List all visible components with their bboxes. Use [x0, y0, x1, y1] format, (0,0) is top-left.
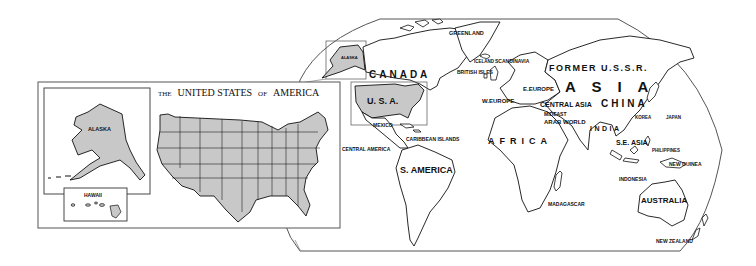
label-se-asia: S.E. ASIA [616, 139, 648, 146]
label-alaska-world: ALASKA [341, 55, 358, 60]
label-china: CHINA [601, 98, 648, 109]
label-scandinavia: SCANDINAVIA [495, 58, 530, 64]
mexico-central-america [362, 112, 408, 148]
label-central-america: CENTRAL AMERICA [342, 146, 391, 152]
north-america-outline [363, 28, 470, 90]
label-south-america: S. AMERICA [400, 165, 453, 175]
label-new-guinea: NEW GUINEA [669, 161, 702, 167]
label-hawaii: HAWAII [84, 192, 102, 198]
label-mexico: MEXICO [373, 122, 393, 128]
label-japan: JAPAN [666, 115, 681, 120]
label-india: INDIA [590, 125, 622, 132]
label-asia: A S I A [565, 78, 654, 95]
label-greenland: GREENLAND [449, 30, 484, 36]
label-new-zealand: NEW ZEALAND [656, 238, 693, 244]
indonesia-islands [610, 146, 639, 163]
label-iceland: ICELAND [474, 59, 495, 64]
label-alaska-inset: ALASKA [88, 126, 111, 132]
label-canada: CANADA [369, 69, 430, 80]
label-former-ussr: FORMER U.S.S.R. [549, 63, 648, 73]
label-indonesia: INDONESIA [619, 176, 647, 182]
label-africa: AFRICA [488, 136, 552, 146]
world-alaska-shape [322, 45, 365, 78]
label-usa: U. S. A. [367, 96, 398, 106]
world-map-figure: GREENLAND ICELAND SCANDINAVIA BRITISH IS… [0, 0, 756, 266]
label-madagascar: MADAGASCAR [548, 201, 585, 207]
label-korea: KOREA [635, 115, 652, 120]
label-british-isles: BRITISH ISLES [457, 69, 494, 75]
label-e-europe: E.EUROPE [523, 86, 554, 92]
label-caribbean: CARIBBEAN ISLANDS [406, 136, 460, 142]
new-zealand-shape [692, 214, 708, 240]
label-w-europe: W.EUROPE [482, 98, 514, 104]
iceland-shape [480, 54, 490, 59]
label-australia: AUSTRALIA [641, 196, 687, 205]
label-arab-world: ARAB WORLD [544, 119, 586, 125]
label-central-asia: CENTRAL ASIA [540, 101, 592, 108]
label-philippines: PHILIPPINES [652, 148, 680, 153]
south-america-shape [396, 145, 455, 246]
label-mideast: MIDEAST [544, 111, 567, 117]
